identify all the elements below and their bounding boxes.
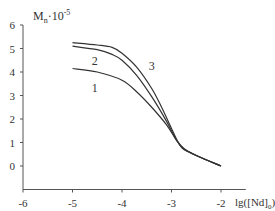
y-tick-label: 4 — [10, 66, 16, 78]
y-tick-label: 3 — [10, 90, 16, 102]
y-tick-label: 0 — [10, 160, 16, 172]
x-tick-label: -4 — [117, 197, 127, 209]
y-axis-label: Mn·10-5 — [33, 8, 70, 25]
curve-label-3: 3 — [149, 59, 155, 73]
chart: 0123456-6-5-4-3-2 123 Mn·10-5 lg([Nd]0) — [0, 0, 275, 211]
y-tick-label: 6 — [10, 19, 16, 31]
tick-labels: 0123456-6-5-4-3-2 — [10, 19, 226, 209]
curve-label-2: 2 — [92, 54, 98, 68]
x-tick-label: -2 — [216, 197, 225, 209]
y-tick-label: 2 — [10, 113, 16, 125]
y-tick-label: 5 — [10, 43, 16, 55]
curve-labels: 123 — [92, 54, 155, 95]
x-tick-label: -3 — [167, 197, 177, 209]
x-tick-label: -6 — [18, 197, 28, 209]
axes — [20, 25, 246, 193]
x-tick-label: -5 — [68, 197, 78, 209]
y-tick-label: 1 — [10, 137, 16, 149]
curve-label-1: 1 — [92, 81, 98, 95]
x-axis-label: lg([Nd]0) — [235, 196, 275, 211]
